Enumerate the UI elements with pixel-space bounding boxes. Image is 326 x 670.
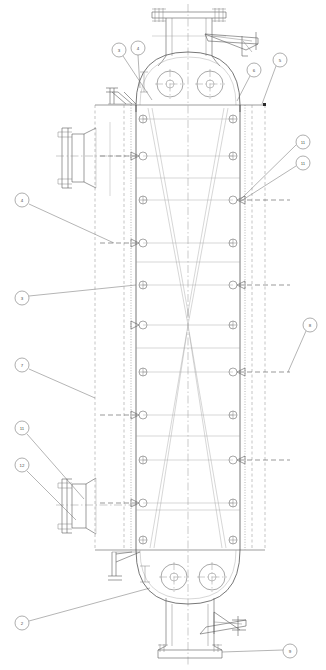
bottom-davit-bracket [200, 612, 246, 636]
nozzle-marker [229, 536, 237, 544]
balloon-label: 11 [301, 161, 306, 166]
balloon-callouts: 3 4 6 5 11 [15, 41, 317, 658]
nozzle-marker [139, 536, 147, 544]
balloon-b14[interactable]: 9 [222, 644, 297, 658]
left-lower-flange-bolts [58, 483, 72, 529]
bottom-head-manway-left [159, 562, 189, 592]
vessel-elevation-drawing: 3 4 6 5 11 [0, 0, 326, 670]
balloon-b4[interactable]: 5 [262, 53, 287, 104]
balloon-b3[interactable]: 6 [237, 63, 261, 101]
top-davit-bracket [205, 32, 258, 56]
lower-support-clip [108, 552, 140, 580]
left-shell-nozzles [131, 115, 147, 544]
top-head-manway-right [195, 69, 225, 99]
balloon-b6[interactable]: 11 [241, 156, 310, 201]
balloon-b13[interactable]: 2 [15, 588, 150, 630]
balloon-label: 12 [20, 463, 25, 468]
bottom-head-manway-right [197, 562, 227, 592]
upper-support-clip [106, 88, 136, 104]
balloon-b8[interactable]: 3 [15, 285, 136, 305]
top-head-thickness-tick [140, 72, 148, 92]
left-upper-nozzle [56, 122, 140, 196]
balloon-b10[interactable]: 7 [15, 358, 95, 398]
projection-dashes [100, 156, 290, 503]
bottom-nozzle [158, 598, 222, 658]
left-upper-flange-bolts [58, 132, 72, 184]
balloon-label: 11 [301, 140, 306, 145]
right-shell-nozzles [229, 115, 245, 544]
balloon-b7[interactable]: 4 [15, 193, 114, 243]
balloon-b9[interactable]: 8 [288, 318, 317, 372]
left-lower-nozzle [56, 478, 140, 534]
top-flange-bolts [152, 8, 226, 22]
engineering-drawing-canvas: 3 4 6 5 11 [0, 0, 326, 670]
balloon-b2[interactable]: 4 [131, 41, 145, 88]
balloon-label: 11 [20, 426, 25, 431]
top-head-manway-left [155, 69, 185, 99]
bottom-flange-bolts [158, 644, 222, 652]
